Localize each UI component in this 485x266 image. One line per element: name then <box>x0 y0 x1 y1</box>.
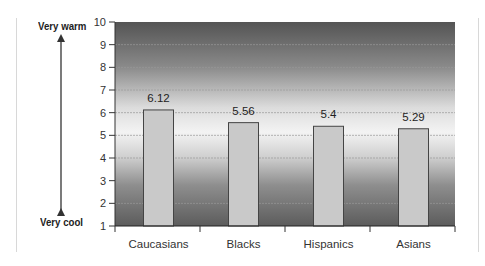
y-tick-label: 5 <box>100 129 106 141</box>
y-tick-label: 3 <box>100 175 106 187</box>
y-tick-label: 6 <box>100 107 106 119</box>
y-tick-label: 9 <box>100 39 106 51</box>
y-tick-label: 7 <box>100 84 106 96</box>
y-tick-label: 2 <box>100 197 106 209</box>
bar-asians <box>399 129 429 226</box>
bar-chart: 6.125.565.45.29 12345678910 CaucasiansBl… <box>0 0 485 266</box>
category-label: Hispanics <box>304 238 354 250</box>
value-label: 5.56 <box>232 105 254 117</box>
category-label: Asians <box>396 238 431 250</box>
bar-blacks <box>229 123 259 226</box>
value-label: 5.29 <box>402 111 424 123</box>
y-tick-label: 1 <box>100 220 106 232</box>
y-axis-ticks: 12345678910 <box>94 16 115 232</box>
bar-hispanics <box>314 126 344 226</box>
y-tick-label: 8 <box>100 61 106 73</box>
x-axis-ticks: CaucasiansBlacksHispanicsAsians <box>115 226 455 250</box>
value-label: 6.12 <box>147 92 169 104</box>
y-tick-label: 10 <box>94 16 106 28</box>
category-label: Blacks <box>227 238 261 250</box>
bar-caucasians <box>144 110 174 226</box>
category-label: Caucasians <box>128 238 188 250</box>
value-label: 5.4 <box>321 108 338 120</box>
y-tick-label: 4 <box>100 152 106 164</box>
